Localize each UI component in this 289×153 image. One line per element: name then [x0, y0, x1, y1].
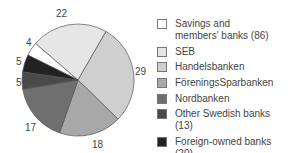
legend-swatch: [157, 137, 167, 147]
legend-item-savings: Savings and members' banks (86): [157, 18, 289, 42]
legend-swatch: [157, 47, 167, 57]
legend-item-foreningssparbanken: FöreningsSparbanken: [157, 77, 289, 89]
legend-swatch: [157, 109, 167, 119]
label-savings: 4: [26, 37, 32, 48]
label-other: 5: [16, 77, 22, 88]
label-handels: 29: [135, 66, 146, 77]
legend-item-other-swedish: Other Swedish banks (13): [157, 108, 289, 132]
label-forenings: 18: [92, 139, 103, 150]
legend: Savings and members' banks (86) SEB Hand…: [157, 18, 289, 153]
legend-item-handelsbanken: Handelsbanken: [157, 61, 289, 73]
legend-swatch: [157, 78, 167, 88]
legend-swatch: [157, 62, 167, 72]
label-foreign: 5: [16, 56, 22, 67]
label-nord: 17: [25, 122, 36, 133]
legend-item-foreign-owned: Foreign-owned banks (20): [157, 136, 289, 153]
label-seb: 22: [56, 8, 67, 19]
legend-swatch: [157, 19, 167, 29]
legend-item-nordbanken: Nordbanken: [157, 93, 289, 105]
legend-swatch: [157, 94, 167, 104]
legend-item-seb: SEB: [157, 46, 289, 58]
